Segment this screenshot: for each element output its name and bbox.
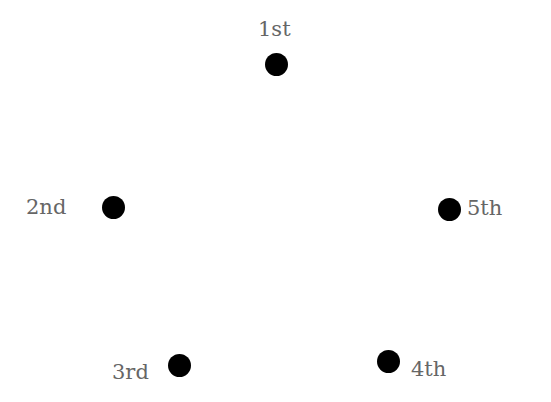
dot-1st bbox=[265, 53, 288, 76]
label-3rd: 3rd bbox=[112, 362, 149, 383]
dot-2nd bbox=[102, 196, 125, 219]
dot-4th bbox=[377, 350, 400, 373]
label-2nd: 2nd bbox=[26, 197, 66, 218]
label-4th: 4th bbox=[411, 359, 446, 380]
diagram-canvas: 1st 2nd 3rd 4th 5th bbox=[0, 0, 551, 402]
label-1st: 1st bbox=[258, 19, 291, 40]
dot-3rd bbox=[168, 354, 191, 377]
dot-5th bbox=[438, 198, 461, 221]
label-5th: 5th bbox=[467, 198, 502, 219]
